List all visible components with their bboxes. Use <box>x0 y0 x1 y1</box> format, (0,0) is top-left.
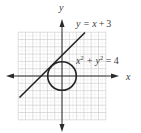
x-axis-label: x <box>125 71 131 82</box>
x-axis-right-arrow-icon <box>111 74 119 79</box>
coordinate-graph: x y y = x+3 x2 + y2 = 4 <box>0 0 141 133</box>
y-axis-top-arrow-icon <box>60 19 65 27</box>
y-axis-bottom-arrow-icon <box>60 124 65 132</box>
circle-equation-label: x2 + y2 = 4 <box>75 54 119 66</box>
y-axis-label: y <box>58 2 64 13</box>
line-equation-label: y = x+3 <box>75 18 111 29</box>
plus-sign: + <box>99 18 105 29</box>
x-axis-left-arrow-icon <box>6 74 14 79</box>
